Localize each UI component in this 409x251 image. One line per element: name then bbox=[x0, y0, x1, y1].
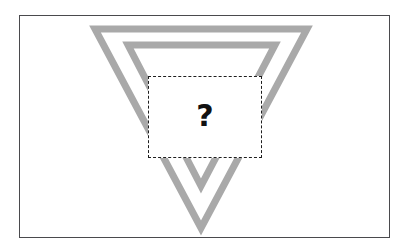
question-mark-label: ? bbox=[196, 101, 213, 131]
figure-stage: ? bbox=[0, 0, 409, 251]
dashed-occluder: ? bbox=[148, 76, 262, 158]
